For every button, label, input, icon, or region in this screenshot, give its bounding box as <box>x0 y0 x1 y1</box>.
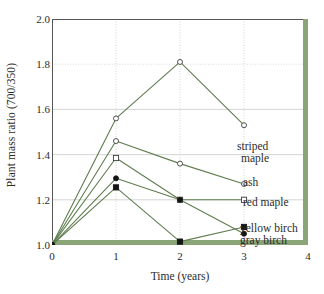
figure: Plant mass ratio (700/350) 2.0 1.8 1.6 1… <box>0 0 324 294</box>
series-annotation-striped-maple-line1: striped <box>237 140 268 152</box>
x-tick-label: 1 <box>113 251 119 262</box>
series-annotation-gray-birch: gray birch <box>240 234 287 246</box>
series-annotation-yellow-birch: yellow birch <box>240 222 298 234</box>
series-annotation-ash: ash <box>243 176 258 188</box>
x-tick-label: 3 <box>241 251 247 262</box>
series-annotation-red-maple: red maple <box>243 196 289 208</box>
x-tick-label: 2 <box>177 251 183 262</box>
x-axis-title: Time (years) <box>52 270 308 282</box>
x-tick-label: 0 <box>49 251 55 262</box>
series-annotation-striped-maple-line2: maple <box>241 152 269 164</box>
plot-area <box>52 19 308 245</box>
chart-svg <box>52 19 308 245</box>
x-tick-label: 4 <box>305 251 311 262</box>
